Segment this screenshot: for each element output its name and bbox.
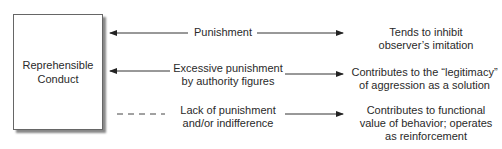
row2-cause: Excessive punishment by authority figure… xyxy=(170,62,286,88)
row2-effect: Contributes to the “legitimacy” of aggre… xyxy=(347,66,502,92)
row3-effect: Contributes to functional value of behav… xyxy=(352,104,500,143)
row1-effect: Tends to inhibit observer’s imitation xyxy=(352,26,500,52)
row1-cause: Punishment xyxy=(190,26,256,39)
row3-cause: Lack of punishment and/or indifference xyxy=(170,104,286,130)
